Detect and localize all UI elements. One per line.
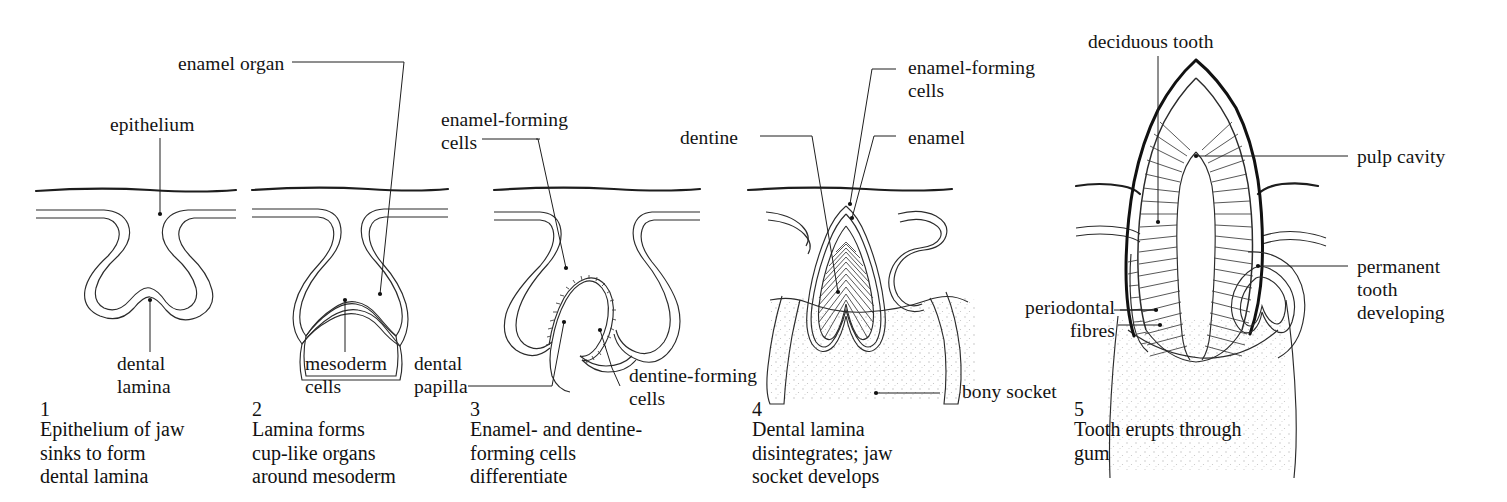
label-dental-papilla: dental papilla	[414, 352, 468, 398]
label-permanent-tooth-developing: permanent tooth developing	[1357, 255, 1445, 324]
dentine-striations-5-right	[1202, 122, 1253, 356]
label-enamel-forming-cells-4: enamel-forming cells	[908, 56, 1035, 102]
label-epithelium: epithelium	[110, 113, 194, 136]
panel-1-caption: Epithelium of jaw sinks to form dental l…	[40, 418, 184, 489]
label-enamel-organ: enamel organ	[178, 52, 284, 75]
dentine-striations-4	[818, 242, 874, 337]
label-bony-socket: bony socket	[962, 380, 1057, 403]
label-mesoderm-cells: mesoderm cells	[305, 352, 387, 398]
panel-3-artwork	[468, 139, 700, 392]
panel-4-caption: Dental lamina disintegrates; jaw socket …	[752, 418, 893, 489]
panel-3-caption: Enamel- and dentine- forming cells diffe…	[470, 418, 642, 489]
cell-beads	[546, 275, 616, 363]
label-dental-lamina: dental lamina	[117, 352, 171, 398]
panel-1-artwork	[36, 138, 236, 352]
label-enamel-forming-cells-3: enamel-forming cells	[441, 108, 568, 154]
dentine-striations-5-left	[1139, 122, 1190, 356]
label-dentine-forming-cells: dentine-forming cells	[629, 364, 757, 410]
panel-4-artwork	[748, 69, 990, 410]
label-pulp-cavity: pulp cavity	[1357, 145, 1445, 168]
panel-2-artwork	[252, 62, 448, 380]
tooth-development-figure: epithelium dental lamina 1 Epithelium of…	[0, 0, 1507, 502]
panel-5-artwork	[1076, 56, 1348, 480]
label-enamel: enamel	[908, 126, 965, 149]
periodontal-fibre-ticks	[1128, 260, 1150, 344]
panel-5-caption: Tooth erupts through gum	[1074, 418, 1241, 465]
label-deciduous-tooth: deciduous tooth	[1088, 30, 1214, 53]
label-periodontal-fibres: periodontal fibres	[1007, 296, 1115, 342]
label-dentine: dentine	[680, 126, 738, 149]
panel-2-caption: Lamina forms cup-like organs around meso…	[252, 418, 396, 489]
